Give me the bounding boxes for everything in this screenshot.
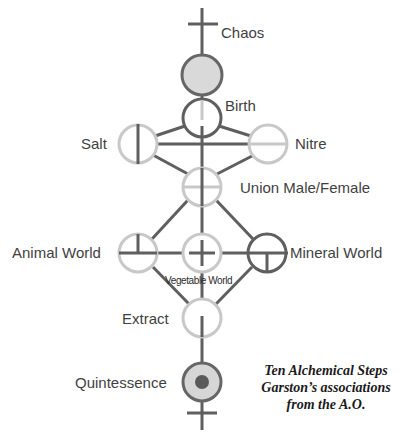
animal-world-symbol-icon bbox=[119, 234, 157, 272]
mineral-world-label: Mineral World bbox=[290, 245, 382, 260]
union-animal-link bbox=[152, 200, 188, 239]
caption-line-1: Ten Alchemical Steps bbox=[246, 362, 406, 379]
extract-symbol-icon bbox=[183, 299, 221, 337]
salt-symbol-icon bbox=[119, 124, 157, 164]
caption-line-3: from the A.O. bbox=[246, 396, 406, 413]
birth-nitre-link bbox=[219, 126, 251, 136]
quintessence-symbol-icon bbox=[183, 363, 221, 401]
vegetable-world-symbol-icon bbox=[183, 234, 221, 272]
birth-symbol-icon bbox=[183, 99, 221, 137]
birth-label: Birth bbox=[225, 98, 256, 113]
extract-label: Extract bbox=[122, 311, 169, 326]
salt-label: Salt bbox=[81, 136, 107, 151]
quintessence-label: Quintessence bbox=[75, 375, 167, 390]
chaos-symbol-icon bbox=[182, 55, 222, 95]
mineral-world-symbol-icon bbox=[248, 234, 286, 272]
union-symbol-icon bbox=[183, 168, 221, 206]
animal-world-label: Animal World bbox=[12, 245, 101, 260]
diagram-caption: Ten Alchemical Steps Garston’s associati… bbox=[246, 362, 406, 413]
salt-union-link bbox=[153, 155, 188, 174]
nitre-symbol-icon bbox=[249, 125, 287, 163]
vegetable-world-label: Vegetable World bbox=[165, 276, 232, 286]
birth-salt-link bbox=[155, 126, 185, 136]
chaos-label: Chaos bbox=[221, 25, 264, 40]
caption-line-2: Garston’s associations bbox=[246, 379, 406, 396]
union-label: Union Male/Female bbox=[240, 180, 370, 195]
union-mineral-link bbox=[216, 200, 253, 239]
nitre-union-link bbox=[217, 155, 254, 174]
nitre-label: Nitre bbox=[295, 136, 327, 151]
